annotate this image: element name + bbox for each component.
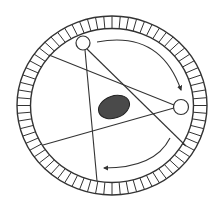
detector-segment-divider [193,98,206,99]
detector-segment-divider [104,16,105,28]
detector-segment-divider [159,169,167,179]
detector-segment-divider [164,37,173,47]
scanned-object [95,91,133,123]
detector-segment-divider [192,90,205,92]
detector-segment-divider [126,181,128,193]
detector-segment-divider [174,155,184,163]
detector-segment-divider [58,32,66,42]
x-ray-sources [76,36,189,115]
detector-segment-divider [58,169,66,179]
detector-segment-divider [179,54,190,61]
detector-segment-divider [179,150,190,157]
detector-segment-divider [191,125,204,128]
detector-segment-divider [189,75,202,79]
detector-segment-divider [26,68,38,73]
detector-segment-divider [18,119,31,121]
detector-segment-divider [80,21,85,33]
detector-segment-divider [104,182,105,194]
detector-segment-divider [146,24,152,35]
rotation-arrow-upper [97,40,181,90]
source-top-left-icon [76,36,90,50]
detector-segment-divider [140,178,145,190]
detector-segment-divider [153,172,160,183]
beam-top-source-to-lower-right [87,49,186,146]
detector-segment-divider [96,17,98,29]
detector-segment-divider [189,132,202,136]
detector-segment-divider [20,125,33,128]
detector-segment-divider [146,175,152,186]
detector-segment-divider [193,112,206,113]
detector-segment-divider [45,42,55,51]
source-right-icon [174,100,189,115]
beam-top-source-to-bottom [85,50,97,181]
detector-segment-divider [140,21,145,33]
detector-segment-divider [23,132,36,136]
detector-segment-divider [87,180,90,192]
detector-segment-divider [126,17,128,29]
detector-segment-divider [45,160,55,169]
detector-segment-divider [80,178,85,190]
detector-segment-divider [133,19,136,31]
detector-segment-divider [23,75,36,79]
detector-segment-divider [72,175,78,186]
detector-segment-divider [72,24,78,35]
detector-segment-divider [17,98,30,99]
detector-segment-divider [39,48,49,56]
detector-segment-divider [119,16,120,28]
detector-segment-divider [191,82,204,85]
detector-segment-divider [119,182,120,194]
detector-segment-divider [96,181,98,193]
detector-segment-divider [65,28,72,39]
detector-segment-divider [18,90,31,92]
rotation-arrow-lower [104,138,170,168]
detector-segment-divider [133,180,136,192]
detector-segment-divider [30,144,42,150]
detector-segment-divider [65,172,72,183]
detector-segment-divider [192,119,205,121]
detector-segment-divider [186,68,198,73]
detector-segment-divider [159,32,167,42]
detector-segment-divider [39,155,49,163]
detector-segment-divider [174,48,184,56]
detector-segment-divider [170,160,180,169]
detector-segment-divider [30,61,42,67]
scanner-diagram [0,0,224,207]
dark-object [95,91,133,123]
detector-segment-divider [51,37,60,47]
detector-segment-divider [34,150,45,157]
detector-segment-divider [17,112,30,113]
detector-segment-divider [186,138,198,143]
detector-segment-divider [170,42,180,51]
detector-segment-divider [87,19,90,31]
detector-segment-divider [153,28,160,39]
detector-segment-divider [183,61,195,67]
detector-segment-divider [26,138,38,143]
detector-segment-divider [20,82,33,85]
detector-segment-divider [164,164,173,174]
detector-segment-divider [51,164,60,174]
detector-segment-divider [34,54,45,61]
